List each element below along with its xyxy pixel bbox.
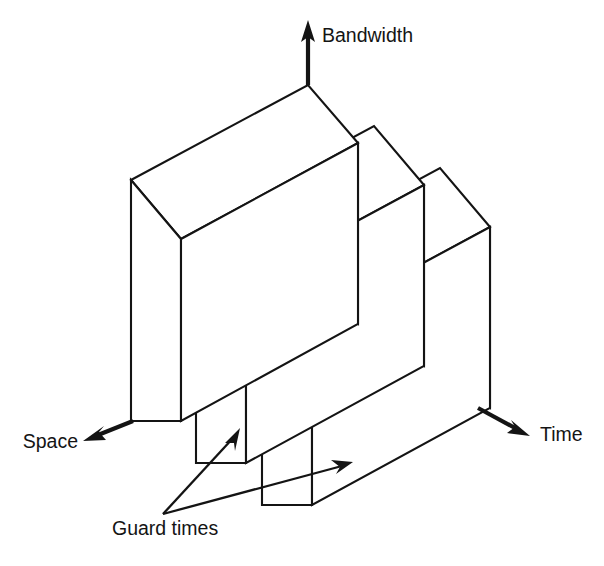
time-axis-label: Time bbox=[540, 423, 583, 445]
space-axis-label: Space bbox=[23, 430, 78, 452]
guard-times-label: Guard times bbox=[112, 517, 218, 539]
time-arrow-head bbox=[507, 420, 530, 436]
axis-space: Space bbox=[23, 421, 133, 452]
figure-root: Bandwidth Space Time Guard times bbox=[0, 0, 604, 566]
axis-time: Time bbox=[478, 408, 583, 445]
axis-bandwidth: Bandwidth bbox=[301, 20, 413, 85]
space-axis-line bbox=[98, 421, 133, 435]
time-axis-line bbox=[478, 408, 515, 428]
multiplexing-diagram: Bandwidth Space Time Guard times bbox=[0, 0, 604, 566]
bandwidth-axis-label: Bandwidth bbox=[322, 24, 413, 46]
